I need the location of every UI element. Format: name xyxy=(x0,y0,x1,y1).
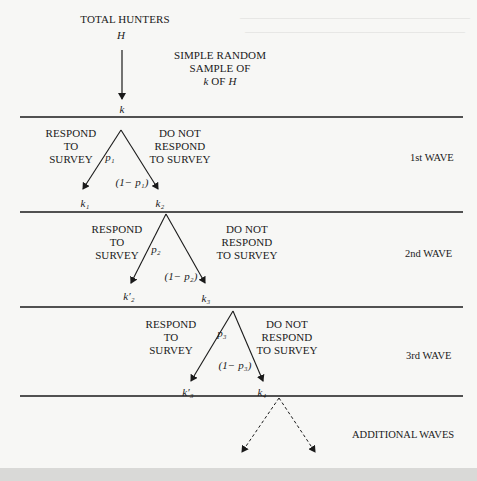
wave1-p-label: p₁ xyxy=(103,151,117,164)
label-line: RESPOND xyxy=(140,140,220,153)
additional-arrow-left xyxy=(242,398,279,452)
sample-node-k: k xyxy=(114,103,130,116)
wave3-respond-node: k′₃ xyxy=(178,386,198,399)
wave1-respond-label: RESPOND TO SURVEY xyxy=(36,127,106,166)
label-line: RESPOND xyxy=(247,331,327,344)
wave2-p-label: p₂ xyxy=(149,243,163,256)
label-line: TO SURVEY xyxy=(247,344,327,357)
wave2-nonrespond-label: DO NOT RESPOND TO SURVEY xyxy=(207,223,287,262)
bleed-through-text: ―――――――――――――――――――――― xyxy=(245,26,465,37)
label-line: TO xyxy=(82,236,152,249)
label-line: RESPOND xyxy=(82,223,152,236)
wave3-nonrespond-node: k₄ xyxy=(254,386,270,399)
wave1-respond-node: k₁ xyxy=(77,197,93,210)
label-line: RESPOND xyxy=(207,236,287,249)
wave2-respond-label: RESPOND TO SURVEY xyxy=(82,223,152,262)
wave2-one-minus-p-label: (1− p₂) xyxy=(160,270,202,283)
label-line: TO xyxy=(136,331,206,344)
label-line: TO SURVEY xyxy=(140,153,220,166)
sample-annotation-line3: k OF H xyxy=(170,75,270,88)
sample-annotation-line1: SIMPLE RANDOM xyxy=(170,49,270,62)
additional-arrow-right xyxy=(279,398,315,452)
sample-var-k: k xyxy=(203,75,208,87)
wave1-nonrespond-label: DO NOT RESPOND TO SURVEY xyxy=(140,127,220,166)
label-line: SURVEY xyxy=(36,153,106,166)
wave1-label: 1st WAVE xyxy=(410,152,454,163)
wave3-nonrespond-label: DO NOT RESPOND TO SURVEY xyxy=(247,318,327,357)
wave2-label: 2nd WAVE xyxy=(405,248,452,259)
sample-of: OF xyxy=(211,75,225,87)
label-line: DO NOT xyxy=(247,318,327,331)
wave3-respond-label: RESPOND TO SURVEY xyxy=(136,318,206,357)
label-line: RESPOND xyxy=(136,318,206,331)
wave3-one-minus-p-label: (1− p₃) xyxy=(214,359,256,372)
label-line: DO NOT xyxy=(207,223,287,236)
wave3-label: 3rd WAVE xyxy=(406,350,451,361)
total-hunters-label: TOTAL HUNTERS xyxy=(80,13,170,26)
label-line: TO xyxy=(36,140,106,153)
wave3-p-label: p₃ xyxy=(215,327,229,340)
wave2-respond-node: k′₂ xyxy=(119,290,139,303)
label-line: SURVEY xyxy=(82,249,152,262)
additional-waves-label: ADDITIONAL WAVES xyxy=(352,429,454,440)
wave1-one-minus-p-label: (1− p₁) xyxy=(112,176,152,189)
label-line: DO NOT xyxy=(140,127,220,140)
label-line: RESPOND xyxy=(36,127,106,140)
scan-edge-band xyxy=(0,468,477,481)
label-line: TO SURVEY xyxy=(207,249,287,262)
sample-var-h: H xyxy=(228,75,236,87)
bleed-through-text: ――――――――――――――――――――――― xyxy=(240,12,470,23)
sample-annotation-line2: SAMPLE OF xyxy=(170,62,270,75)
wave2-nonrespond-node: k₃ xyxy=(198,292,214,305)
total-hunters-variable: H xyxy=(113,29,129,42)
label-line: SURVEY xyxy=(136,344,206,357)
wave1-nonrespond-node: k₂ xyxy=(152,197,168,210)
